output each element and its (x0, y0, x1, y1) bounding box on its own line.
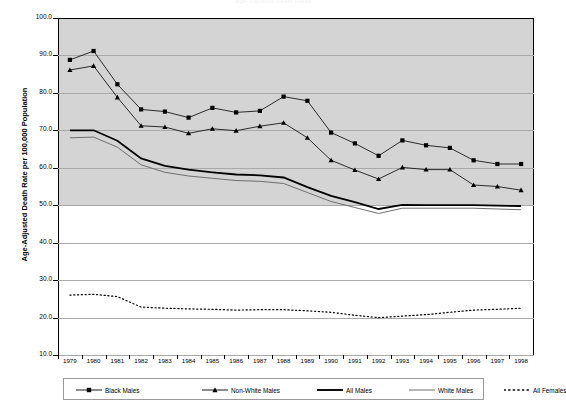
series-all-males (70, 130, 521, 209)
y-tick-mark (53, 55, 58, 56)
legend-label: Non-White Males (231, 387, 280, 394)
square-marker (139, 107, 143, 111)
legend-swatch-square-marker-line (76, 385, 102, 395)
square-marker (305, 99, 309, 103)
triangle-marker (352, 167, 357, 172)
square-marker (377, 154, 381, 158)
series-white-males (70, 137, 521, 213)
legend-swatch-thick-line (317, 385, 343, 395)
y-tick-mark (53, 205, 58, 206)
square-marker (448, 146, 452, 150)
legend-label: All Males (346, 387, 372, 394)
square-marker (187, 116, 191, 120)
triangle-marker (91, 63, 96, 68)
triangle-marker (400, 165, 405, 170)
y-tick-mark (53, 243, 58, 244)
square-marker (68, 58, 72, 62)
triangle-marker (471, 182, 476, 187)
legend-swatch-triangle-marker-line (202, 385, 228, 395)
legend-label: White Males (438, 387, 473, 394)
legend-swatch-dotted-line (504, 385, 530, 395)
square-marker (519, 162, 523, 166)
y-tick-mark (53, 280, 58, 281)
series-line (70, 66, 521, 190)
legend-item-all-females[interactable]: All Females (504, 383, 566, 397)
square-marker (92, 49, 96, 53)
series-line (70, 137, 521, 213)
triangle-marker (281, 120, 286, 125)
legend-item-non-white-males[interactable]: Non-White Males (202, 383, 280, 397)
triangle-marker (305, 135, 310, 140)
square-marker (210, 106, 214, 110)
series-non-white-males (67, 63, 523, 192)
y-tick-mark (53, 18, 58, 19)
y-tick-mark (53, 355, 58, 356)
square-marker (163, 110, 167, 114)
y-tick-mark (53, 318, 58, 319)
square-marker (400, 138, 404, 142)
series-line (70, 130, 521, 209)
legend-item-black-males[interactable]: Black Males (76, 383, 139, 397)
series-line (70, 294, 521, 317)
square-marker (282, 95, 286, 99)
square-marker (234, 110, 238, 114)
triangle-marker (210, 126, 215, 131)
square-marker (329, 131, 333, 135)
legend-item-white-males[interactable]: White Males (409, 383, 473, 397)
series-black-males (68, 49, 523, 166)
legend-swatch-thin-line (409, 385, 435, 395)
square-marker (424, 143, 428, 147)
y-tick-mark (53, 168, 58, 169)
square-marker (115, 82, 119, 86)
square-marker (258, 109, 262, 113)
series-all-females (70, 294, 521, 317)
square-marker (353, 141, 357, 145)
legend-label: Black Males (105, 387, 139, 394)
y-tick-mark (53, 130, 58, 131)
legend-item-all-males[interactable]: All Males (317, 383, 372, 397)
series-line (70, 51, 521, 164)
y-tick-mark (53, 93, 58, 94)
legend-label: All Females (533, 387, 566, 394)
chart-legend: Black MalesNon-White MalesAll MalesWhite… (63, 378, 484, 400)
square-marker (472, 158, 476, 162)
square-marker (495, 162, 499, 166)
